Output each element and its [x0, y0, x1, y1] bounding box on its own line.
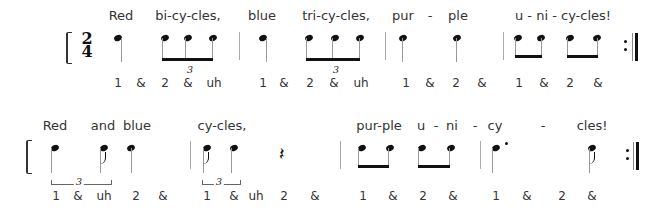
- note-stem: [332, 38, 333, 60]
- lyric: -: [473, 118, 478, 133]
- note-stem: [51, 148, 52, 173]
- count: 1: [52, 189, 60, 203]
- repeat-dot: [626, 149, 629, 152]
- triplet-label: 3: [333, 64, 339, 75]
- count: 2: [452, 76, 460, 90]
- repeat-dot: [624, 48, 627, 51]
- repeat-barline-thick: [636, 142, 639, 170]
- lyric: tri-cy-cles,: [302, 8, 370, 23]
- count: uh: [206, 76, 221, 90]
- repeat-barline-thin: [632, 33, 633, 61]
- note-stem: [231, 148, 232, 173]
- count: 1: [359, 189, 367, 203]
- lyric: cy-cles,: [198, 118, 247, 133]
- lyric: pur: [392, 8, 414, 23]
- count: 1: [515, 76, 523, 90]
- count: 1: [203, 189, 211, 203]
- count: &: [329, 76, 338, 90]
- repeat-barline-thick: [635, 33, 638, 61]
- lyric: blue: [248, 8, 276, 23]
- note-stem: [131, 148, 132, 173]
- count: &: [158, 189, 167, 203]
- barline: [385, 32, 386, 60]
- eighth-note: [446, 144, 456, 153]
- repeat-barline-thin: [633, 142, 634, 170]
- lyric: cles!: [577, 118, 608, 133]
- count: 2: [161, 76, 169, 90]
- eighth-note: [355, 34, 365, 43]
- barline: [503, 32, 504, 60]
- eighth-note: [385, 144, 395, 153]
- triplet-label: 3: [74, 176, 84, 187]
- count: uh: [96, 189, 111, 203]
- system-bracket: [26, 140, 32, 174]
- beam: [567, 55, 598, 58]
- lyric: u: [417, 118, 425, 133]
- barline: [190, 141, 191, 169]
- triplet-label: 3: [214, 176, 224, 187]
- count: 2: [306, 76, 314, 90]
- count: 1: [114, 76, 122, 90]
- augmentation-dot: [505, 142, 508, 145]
- count: &: [522, 189, 531, 203]
- barline: [340, 141, 341, 169]
- count: 1: [492, 189, 500, 203]
- note-stem: [306, 38, 307, 60]
- lyric: u - ni - cy-cles!: [515, 8, 611, 23]
- count: uh: [248, 189, 263, 203]
- lyric: -: [434, 118, 439, 133]
- eighth-flag: [203, 152, 209, 164]
- note-stem: [185, 38, 186, 60]
- count: &: [477, 76, 486, 90]
- eighth-note: [208, 34, 218, 43]
- lyric: pur-ple: [356, 118, 402, 133]
- count: &: [73, 189, 82, 203]
- time-signature: 2 4: [80, 32, 94, 58]
- lyric: -: [541, 118, 546, 133]
- repeat-dot: [626, 157, 629, 160]
- count: 2: [280, 189, 288, 203]
- beam: [162, 58, 213, 61]
- count: &: [136, 76, 145, 90]
- barline: [239, 32, 240, 60]
- triplet-label: 3: [187, 64, 193, 75]
- lyric: -: [428, 8, 433, 23]
- count: 2: [419, 189, 427, 203]
- quarter-note: [398, 34, 408, 43]
- count: 2: [132, 189, 140, 203]
- beam: [306, 58, 360, 61]
- lyric: Red: [43, 118, 68, 133]
- note-stem: [492, 148, 493, 173]
- count: &: [229, 189, 238, 203]
- note-stem: [212, 38, 213, 60]
- beam: [515, 55, 542, 58]
- note-stem: [402, 38, 403, 62]
- count: uh: [353, 76, 368, 90]
- lyric: Red: [109, 8, 134, 23]
- count: &: [587, 189, 596, 203]
- quarter-rest: 𝄽: [279, 143, 285, 165]
- count: &: [448, 189, 457, 203]
- count: &: [425, 76, 434, 90]
- lyric: blue: [123, 118, 151, 133]
- count: &: [310, 189, 319, 203]
- quarter-note: [452, 34, 462, 43]
- count: 1: [259, 76, 267, 90]
- count: &: [183, 76, 192, 90]
- eighth-flag: [589, 152, 595, 164]
- count: &: [388, 189, 397, 203]
- note-stem: [162, 38, 163, 60]
- count: 2: [566, 76, 574, 90]
- system-bracket: [66, 32, 72, 64]
- lyric: ple: [448, 8, 468, 23]
- repeat-dot: [624, 40, 627, 43]
- note-stem: [359, 38, 360, 60]
- count: &: [539, 76, 548, 90]
- note-stem: [121, 38, 122, 62]
- count: 2: [558, 189, 566, 203]
- lyric: bi-cy-cles,: [155, 8, 221, 23]
- count: &: [279, 76, 288, 90]
- count: 1: [402, 76, 410, 90]
- count: &: [593, 76, 602, 90]
- eighth-flag: [100, 152, 106, 164]
